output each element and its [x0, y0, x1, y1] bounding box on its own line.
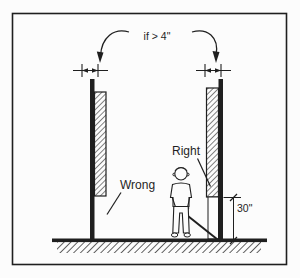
projection-note: if > 4"	[144, 30, 171, 42]
right-label: Right	[172, 144, 201, 158]
curved-arrow-right-icon	[192, 31, 220, 63]
wrong-leader-line	[107, 193, 121, 215]
sign-post-left	[90, 79, 95, 241]
wrong-label: Wrong	[120, 178, 155, 192]
height-dimension: 30"	[224, 194, 253, 244]
person-foot-left	[171, 233, 177, 237]
diagram-frame	[13, 14, 287, 265]
projection-dimension-right	[196, 64, 231, 77]
curved-arrow-left-icon	[97, 31, 129, 63]
figure-canvas: if > 4"	[0, 0, 300, 278]
sign-panel-left	[95, 92, 107, 196]
projection-dimension-left	[73, 64, 108, 77]
sign-mounting-diagram: if > 4"	[0, 0, 300, 278]
person-legs	[173, 207, 189, 234]
sign-post-right	[219, 79, 224, 241]
person-head	[175, 168, 187, 180]
height-dimension-label: 30"	[237, 202, 253, 214]
person-foot-right	[184, 233, 190, 237]
